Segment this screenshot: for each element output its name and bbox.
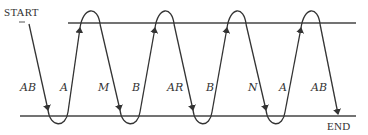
segment-label-1: AB <box>19 81 36 94</box>
segment-label-4: B <box>131 81 140 94</box>
segment-label-7: N <box>247 81 258 94</box>
diagram-svg: START END AB A M B AR B N A AB <box>0 0 368 135</box>
segment-label-9: AB <box>310 81 327 94</box>
zigzag-diagram: START END AB A M B AR B N A AB <box>0 0 368 135</box>
segment-label-2: A <box>59 81 68 94</box>
segment-label-8: A <box>278 81 287 94</box>
start-label: START <box>4 6 39 18</box>
segment-label-6: B <box>205 81 214 94</box>
zigzag-path <box>29 11 338 124</box>
segment-label-3: M <box>97 81 110 94</box>
segment-label-5: AR <box>166 81 183 94</box>
end-label: END <box>327 120 351 132</box>
